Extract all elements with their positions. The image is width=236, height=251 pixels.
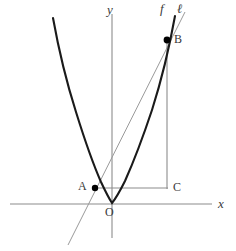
point-b-label: B	[174, 33, 182, 45]
line-label-ell: ℓ	[177, 2, 182, 15]
point-b-marker	[164, 37, 171, 44]
point-c-label: C	[173, 181, 181, 193]
x-axis-label: x	[218, 197, 224, 210]
geometry-figure	[0, 0, 236, 251]
point-a-marker	[92, 185, 98, 191]
parabola-curve-f	[53, 16, 175, 203]
origin-label: O	[105, 206, 114, 218]
point-a-label: A	[78, 180, 87, 192]
curve-label-f: f	[160, 2, 164, 15]
y-axis-label: y	[107, 3, 113, 16]
